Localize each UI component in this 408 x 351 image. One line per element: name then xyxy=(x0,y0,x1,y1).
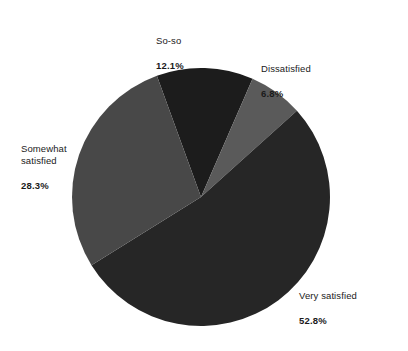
slice-label-name-dissatisfied: Dissatisfied xyxy=(261,63,311,76)
pie-chart-figure: So-so 12.1% Dissatisfied 6.8% Very satis… xyxy=(0,0,408,351)
slice-label-value-so-so: 12.1% xyxy=(156,60,184,73)
slice-label-name-so-so: So-so xyxy=(156,35,184,48)
slice-label-name-very-satisfied: Very satisfied xyxy=(299,290,357,303)
slice-label-very-satisfied: Very satisfied 52.8% xyxy=(299,277,357,340)
slice-label-so-so: So-so 12.1% xyxy=(156,22,184,85)
slice-label-dissatisfied: Dissatisfied 6.8% xyxy=(261,50,311,113)
slice-label-value-somewhat-satisfied: 28.3% xyxy=(21,180,67,193)
slice-label-name-somewhat-satisfied: Somewhat satisfied xyxy=(21,143,67,168)
slice-label-value-dissatisfied: 6.8% xyxy=(261,88,311,101)
slice-label-value-very-satisfied: 52.8% xyxy=(299,315,357,328)
slice-label-somewhat-satisfied: Somewhat satisfied 28.3% xyxy=(21,130,67,205)
